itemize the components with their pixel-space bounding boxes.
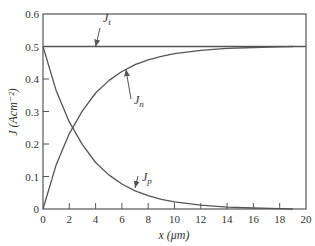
x-tick-label: 20 — [301, 213, 313, 225]
x-tick-label: 10 — [169, 213, 181, 225]
annotations: JtJnJp — [96, 11, 153, 188]
y-tick-label: 0.3 — [25, 106, 39, 118]
x-axis-label: x (μm) — [157, 228, 189, 242]
x-tick-label: 4 — [93, 213, 99, 225]
y-tick-label: 0.1 — [25, 171, 39, 183]
x-tick-label: 12 — [195, 213, 206, 225]
y-tick-label: 0.2 — [25, 138, 39, 150]
y-axis-label: J (Acm⁻²) — [6, 88, 20, 136]
x-tick-label: 6 — [119, 213, 125, 225]
x-tick-label: 0 — [40, 213, 46, 225]
chart: 0246810121416182000.10.20.30.40.50.6 JtJ… — [0, 0, 315, 246]
y-tick-label: 0.6 — [25, 8, 39, 20]
annotation-arrow — [96, 28, 100, 47]
series-line-j-p — [43, 47, 293, 210]
series-line-j-n — [43, 47, 293, 210]
y-tick-label: 0.4 — [25, 73, 39, 85]
x-tick-label: 16 — [248, 213, 260, 225]
y-tick-label: 0 — [34, 203, 40, 215]
series-group — [43, 47, 306, 210]
annotation-arrow — [126, 69, 131, 99]
x-tick-label: 8 — [145, 213, 151, 225]
annotation-arrow — [135, 176, 138, 188]
x-tick-label: 18 — [274, 213, 286, 225]
annotation-label-j-p: Jp — [142, 170, 152, 186]
x-tick-label: 2 — [67, 213, 73, 225]
x-tick-label: 14 — [222, 213, 234, 225]
axes: 0246810121416182000.10.20.30.40.50.6 — [25, 8, 312, 225]
y-tick-label: 0.5 — [25, 41, 39, 53]
annotation-label-j-n: Jn — [134, 93, 144, 109]
